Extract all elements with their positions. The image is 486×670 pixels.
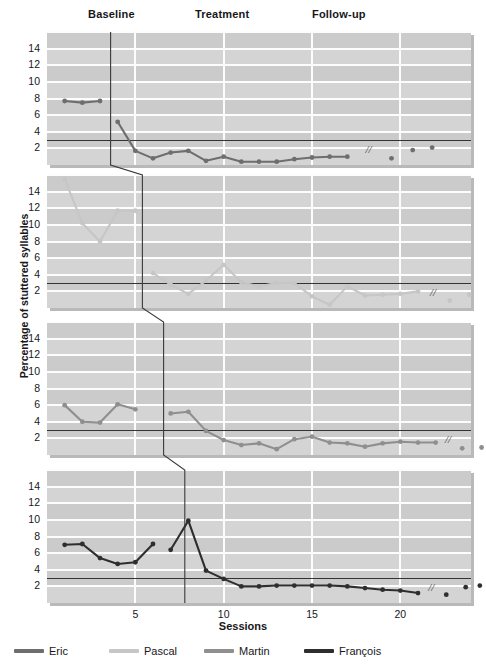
data-point	[221, 576, 226, 581]
data-point	[62, 542, 67, 547]
data-point	[327, 583, 332, 588]
data-point	[463, 585, 468, 590]
data-point	[204, 568, 209, 573]
data-point	[345, 584, 350, 589]
data-point	[133, 560, 138, 565]
data-point	[416, 591, 421, 596]
data-point	[80, 542, 85, 547]
data-point	[380, 587, 385, 592]
data-point	[115, 562, 120, 567]
data-point	[444, 592, 449, 597]
figure-root: Baseline Treatment Follow-up Percentage …	[0, 0, 486, 670]
data-line	[65, 544, 153, 564]
data-point	[98, 556, 103, 561]
data-point	[292, 583, 297, 588]
data-point	[168, 547, 173, 552]
data-point	[151, 542, 156, 547]
data-point	[186, 518, 191, 523]
data-point	[398, 588, 403, 593]
data-point	[274, 583, 279, 588]
series-franois	[0, 0, 486, 670]
time-break-marker: //	[428, 581, 434, 593]
data-point	[239, 584, 244, 589]
data-point	[310, 583, 315, 588]
data-point	[257, 584, 262, 589]
data-line	[171, 521, 418, 593]
data-point	[363, 586, 368, 591]
data-point	[477, 583, 482, 588]
